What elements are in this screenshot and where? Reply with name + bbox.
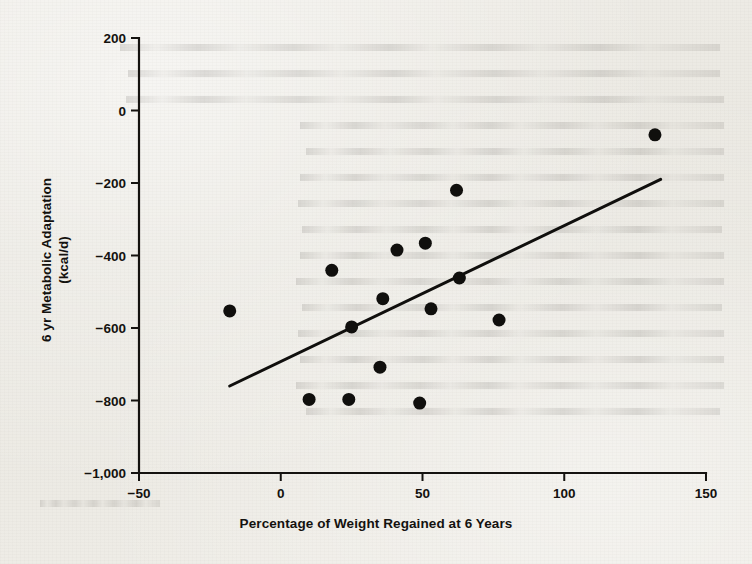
trendline-segment <box>230 179 661 386</box>
y-tick-label: 200 <box>0 31 126 46</box>
data-point <box>223 304 236 317</box>
y-axis-title-line2: (kcal/d) <box>56 236 71 283</box>
data-point <box>493 314 506 327</box>
data-point <box>453 271 466 284</box>
data-point <box>450 184 463 197</box>
data-point <box>303 393 316 406</box>
y-axis-title: 6 yr Metabolic Adaptation (kcal/d) <box>38 110 72 410</box>
data-point <box>419 237 432 250</box>
data-point <box>648 128 661 141</box>
data-point <box>425 302 438 315</box>
x-tick-label: 150 <box>695 486 718 501</box>
data-point <box>373 361 386 374</box>
y-axis-title-line1: 6 yr Metabolic Adaptation <box>39 178 54 342</box>
x-tick-label: 100 <box>553 486 576 501</box>
data-point <box>413 397 426 410</box>
data-point <box>342 393 355 406</box>
data-point <box>325 264 338 277</box>
x-tick-label: 50 <box>415 486 430 501</box>
y-tick-label: −1,000 <box>0 466 126 481</box>
data-point <box>390 244 403 257</box>
data-points <box>223 128 661 409</box>
scatter-plot-figure: 2000−200−400−600−800−1,000 −50050100150 … <box>0 0 752 564</box>
trendline <box>230 179 661 386</box>
x-axis-title: Percentage of Weight Regained at 6 Years <box>0 516 752 531</box>
y-axis-title-container: 6 yr Metabolic Adaptation (kcal/d) <box>38 110 72 410</box>
x-tick-label: −50 <box>128 486 151 501</box>
data-point <box>345 320 358 333</box>
data-point <box>376 292 389 305</box>
x-tick-label: 0 <box>277 486 285 501</box>
